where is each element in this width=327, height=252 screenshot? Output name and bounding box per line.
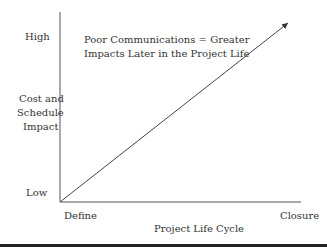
bottom-rule <box>0 244 327 247</box>
x-axis-label: Project Life Cycle <box>154 223 244 235</box>
x-tick-closure: Closure <box>280 210 319 222</box>
annotation-line-1: Poor Communications = Greater <box>84 34 250 46</box>
y-axis-label-1: Cost and <box>19 93 64 105</box>
y-axis-label-2: Schedule <box>17 107 64 119</box>
annotation-line-2: Impacts Later in the Project Life <box>84 48 249 60</box>
y-axis-label-3: Impact <box>23 121 58 133</box>
y-tick-low: Low <box>26 187 47 199</box>
y-tick-high: High <box>25 31 50 43</box>
x-tick-define: Define <box>64 210 97 222</box>
